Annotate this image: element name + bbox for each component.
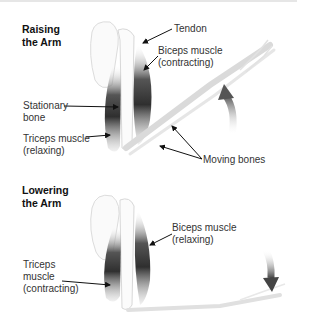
label-line: (relaxing): [172, 234, 236, 246]
moving-bones-label: Moving bones: [203, 154, 265, 166]
tendon-label: Tendon: [174, 23, 207, 35]
title-line: Lowering: [22, 184, 69, 197]
label-line: muscle: [23, 271, 79, 283]
label-line: Biceps muscle: [158, 45, 222, 57]
label-line: (contracting): [23, 283, 79, 295]
raising-arm-drawing: [64, 22, 274, 159]
stationary-bone-label: Stationary bone: [23, 100, 68, 124]
triceps-contracting-label: Triceps muscle (contracting): [23, 259, 79, 295]
label-line: bone: [23, 112, 68, 124]
title-line: Raising: [22, 23, 61, 36]
label-line: Stationary: [23, 100, 68, 112]
lowering-arm-drawing: [62, 195, 285, 310]
down-arrow-icon: [263, 277, 279, 292]
label-line: Triceps muscle: [23, 133, 90, 145]
label-line: (contracting): [158, 57, 222, 69]
label-line: Biceps muscle: [172, 222, 236, 234]
label-line: Triceps: [23, 259, 79, 271]
triceps-relaxing-label: Triceps muscle (relaxing): [23, 133, 90, 157]
lowering-title: Lowering the Arm: [22, 184, 69, 210]
title-line: the Arm: [22, 36, 61, 49]
raising-title: Raising the Arm: [22, 23, 61, 49]
title-line: the Arm: [22, 197, 69, 210]
label-line: (relaxing): [23, 145, 90, 157]
biceps-relaxing-label: Biceps muscle (relaxing): [172, 222, 236, 246]
biceps-contracting-label: Biceps muscle (contracting): [158, 45, 222, 69]
